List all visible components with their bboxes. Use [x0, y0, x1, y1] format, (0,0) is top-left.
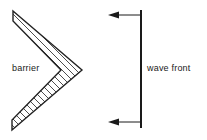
wave-front-barrier-diagram: barrier wave front: [0, 0, 207, 140]
barrier-label: barrier: [12, 63, 39, 73]
bottom-direction-arrow: [108, 119, 140, 126]
wave-front-label: wave front: [147, 63, 191, 73]
top-direction-arrow: [108, 12, 140, 19]
